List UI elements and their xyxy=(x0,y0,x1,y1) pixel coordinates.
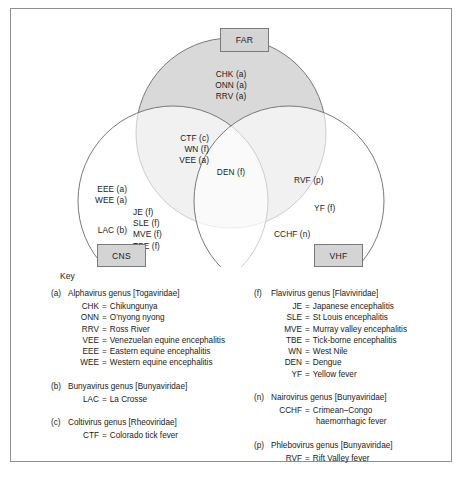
key-entry-name: Venezuelan equine encephalitis xyxy=(110,335,266,346)
region-vhf-only-yf: YF (f) xyxy=(314,203,374,214)
key-group-header: (c)Coltivirus genus [Rheoviridae] xyxy=(51,417,266,429)
key-title: Key xyxy=(60,271,75,281)
key-group: (p)Phlebovirus genus [Bunyaviridae]RVF=R… xyxy=(254,440,464,464)
key-entry: YF=Yellow fever xyxy=(254,369,464,380)
key-group-genus: Phlebovirus genus [Bunyaviridae] xyxy=(271,440,393,452)
key-column-right: (f)Flavivirus genus [Flaviviridae]JE=Jap… xyxy=(254,288,464,476)
key-entry-name: Colorado tick fever xyxy=(110,430,266,441)
figure-frame: CHK (a) ONN (a) RRV (a) CTF (c) WN (f) V… xyxy=(10,8,452,462)
key-entry-equals: = xyxy=(305,312,313,323)
key-entry-equals: = xyxy=(102,335,110,346)
key-entry-abbreviation: RRV xyxy=(51,324,102,335)
key-entry: ONN=O'nyong nyong xyxy=(51,312,266,323)
key-entry-list: CCHF=Crimean–Congohaemorrhagic fever xyxy=(254,405,464,428)
key-entry-abbreviation: YF xyxy=(254,369,305,380)
key-entry-name: Chikungunya xyxy=(110,301,266,312)
key-entry: DEN=Dengue xyxy=(254,357,464,368)
region-vhf-only-cchf: CCHF (n) xyxy=(274,229,338,240)
key-group-header: (b)Bunyavirus genus [Bunyaviridae] xyxy=(51,381,266,393)
key-group-marker: (a) xyxy=(51,288,68,300)
key-entry-list: CHK=ChikungunyaONN=O'nyong nyongRRV=Ross… xyxy=(51,301,266,369)
region-vhf-only-rvf: RVF (p) xyxy=(294,175,354,186)
virus-sle: SLE (f) xyxy=(133,218,191,229)
key-group-marker: (c) xyxy=(51,417,68,429)
set-label-cns: CNS xyxy=(97,244,146,267)
key-entry-equals: = xyxy=(102,346,110,357)
key-entry-list: RVF=Rift Valley fever xyxy=(254,453,464,464)
set-label-cns-text: CNS xyxy=(112,251,131,261)
key-group-header: (f)Flavivirus genus [Flaviviridae] xyxy=(254,288,464,300)
key-entry-abbreviation: CTF xyxy=(51,430,102,441)
key-entry-equals: = xyxy=(305,369,313,380)
virus-mve: MVE (f) xyxy=(133,229,191,240)
venn-diagram: CHK (a) ONN (a) RRV (a) CTF (c) WN (f) V… xyxy=(11,9,451,267)
virus-wn: WN (f) xyxy=(151,144,209,155)
virus-yf: YF (f) xyxy=(314,203,374,214)
key-entry-equals: = xyxy=(102,312,110,323)
key-group-genus: Bunyavirus genus [Bunyaviridae] xyxy=(68,381,187,393)
key-entry-equals: = xyxy=(102,301,110,312)
virus-rvf: RVF (p) xyxy=(294,175,354,186)
key-entry-name: Yellow fever xyxy=(313,369,464,380)
key-entry-abbreviation: CHK xyxy=(51,301,102,312)
key-entry: SLE=St Louis encephalitis xyxy=(254,312,464,323)
key-group-marker: (b) xyxy=(51,381,68,393)
key-group-header: (n)Nairovirus genus [Bunyaviridae] xyxy=(254,392,464,404)
key-group-marker: (n) xyxy=(254,392,271,404)
region-far-only: CHK (a) ONN (a) RRV (a) xyxy=(195,69,267,103)
key-group-genus: Alphavirus genus [Togaviridae] xyxy=(68,288,180,300)
key-group-genus: Coltivirus genus [Rheoviridae] xyxy=(68,417,177,429)
key-entry-abbreviation: CCHF xyxy=(254,405,305,416)
key-entry-abbreviation: EEE xyxy=(51,346,102,357)
key-entry-name: St Louis encephalitis xyxy=(313,312,464,323)
virus-ctf: CTF (c) xyxy=(151,133,209,144)
virus-wee: WEE (a) xyxy=(69,195,127,206)
key-entry-abbreviation: WN xyxy=(254,346,305,357)
key-entry-name: Rift Valley fever xyxy=(313,453,464,464)
set-label-far-text: FAR xyxy=(236,35,254,45)
key-entry: CHK=Chikungunya xyxy=(51,301,266,312)
key-entry-abbreviation: LAC xyxy=(51,394,102,405)
key-entry: WEE=Western equine encephalitis xyxy=(51,357,266,368)
key-entry-abbreviation: MVE xyxy=(254,324,305,335)
key-entry: WN=West Nile xyxy=(254,346,464,357)
set-label-vhf: VHF xyxy=(314,244,363,267)
set-label-vhf-text: VHF xyxy=(329,251,347,261)
key-entry-name-continued: haemorrhagic fever xyxy=(254,416,464,427)
key-entry-name: La Crosse xyxy=(110,394,266,405)
key-entry-list: LAC=La Crosse xyxy=(51,394,266,405)
key-entry-equals: = xyxy=(102,357,110,368)
key-group-header: (p)Phlebovirus genus [Bunyaviridae] xyxy=(254,440,464,452)
key-entry-equals: = xyxy=(102,324,110,335)
virus-cchf: CCHF (n) xyxy=(274,229,338,240)
key-entry-abbreviation: DEN xyxy=(254,357,305,368)
virus-onn: ONN (a) xyxy=(195,80,267,91)
key-entry-abbreviation: WEE xyxy=(51,357,102,368)
virus-eee: EEE (a) xyxy=(69,184,127,195)
virus-lac: LAC (b) xyxy=(69,225,127,236)
key-entry: VEE=Venezuelan equine encephalitis xyxy=(51,335,266,346)
key-entry-abbreviation: JE xyxy=(254,301,305,312)
key-group: (b)Bunyavirus genus [Bunyaviridae]LAC=La… xyxy=(51,381,266,405)
key-group: (c)Coltivirus genus [Rheoviridae]CTF=Col… xyxy=(51,417,266,441)
key-entry-equals: = xyxy=(305,453,313,464)
virus-chk: CHK (a) xyxy=(195,69,267,80)
key-entry-equals: = xyxy=(305,357,313,368)
key-entry-name: Ross River xyxy=(110,324,266,335)
region-far-cns: CTF (c) WN (f) VEE (a) xyxy=(151,133,209,167)
key-group: (f)Flavivirus genus [Flaviviridae]JE=Jap… xyxy=(254,288,464,380)
key-entry-equals: = xyxy=(305,346,313,357)
key-entry-equals: = xyxy=(305,405,313,416)
key-entry-name: Western equine encephalitis xyxy=(110,357,266,368)
key-entry-name: West Nile xyxy=(313,346,464,357)
key-entry-equals: = xyxy=(102,394,110,405)
key-entry: EEE=Eastern equine encephalitis xyxy=(51,346,266,357)
key-entry-abbreviation: TBE xyxy=(254,335,305,346)
virus-rrv: RRV (a) xyxy=(195,91,267,102)
key-entry: JE=Japanese encephalitis xyxy=(254,301,464,312)
key-entry-equals: = xyxy=(305,324,313,335)
virus-vee: VEE (a) xyxy=(151,155,209,166)
key-entry-equals: = xyxy=(305,335,313,346)
region-far-vhf: DEN (f) xyxy=(201,167,261,178)
virus-je: JE (f) xyxy=(133,207,191,218)
